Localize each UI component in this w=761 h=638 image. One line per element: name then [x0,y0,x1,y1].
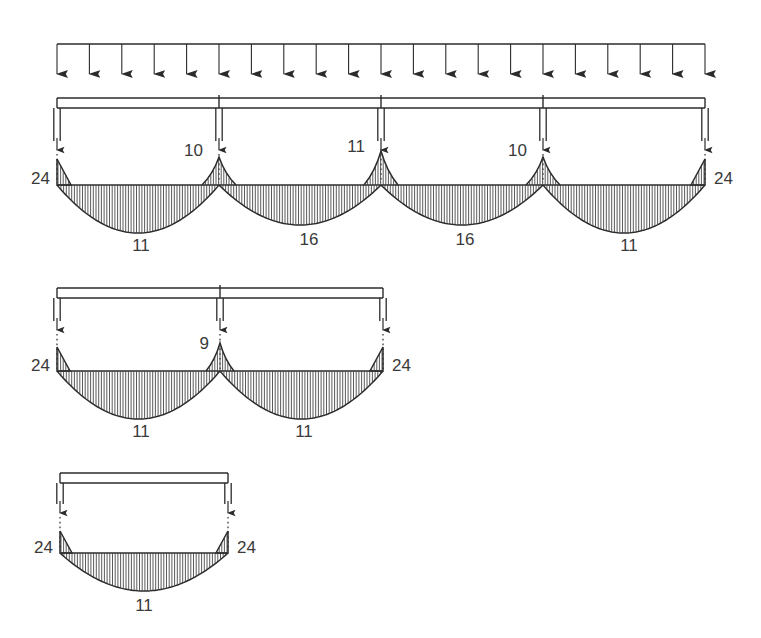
diagram-canvas: 111616111011102424111192424112424 [0,0,761,638]
end-moment-wedge [691,159,705,185]
end-moment-label: 24 [31,356,50,375]
span-moment-label: 11 [295,422,313,441]
span-moment-label: 11 [135,596,153,615]
end-moment-label: 24 [392,356,411,375]
sagging-moment-curve [219,185,381,225]
span-moment-label: 11 [620,236,638,255]
beams-group [54,95,708,591]
load-group [57,44,705,74]
sagging-moment-curve [57,185,219,233]
end-moment-label: 24 [34,538,53,557]
support-moment-label: 9 [200,334,209,353]
span-moment-label: 16 [456,230,475,249]
support-moment-label: 10 [184,141,203,160]
support-moment-label: 10 [508,141,527,160]
support-moment-label: 11 [347,137,365,156]
span-moment-label: 16 [300,230,319,249]
end-moment-label: 24 [237,538,256,557]
end-moment-label: 24 [31,169,50,188]
single-span-beam [57,473,231,591]
two-span-continuous-beam [54,285,386,419]
sagging-moment-curve [543,185,705,233]
end-moment-wedge [57,159,71,185]
bending-moment-diagram-svg: 111616111011102424111192424112424 [0,0,761,638]
end-moment-label: 24 [714,169,733,188]
four-span-continuous-beam [54,95,708,233]
span-moment-label: 11 [132,236,150,255]
sagging-moment-curve [381,185,543,225]
span-moment-label: 11 [132,422,150,441]
